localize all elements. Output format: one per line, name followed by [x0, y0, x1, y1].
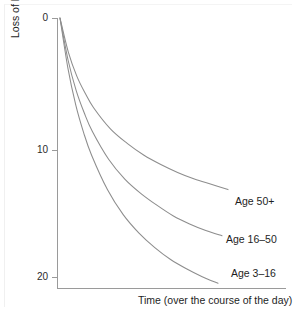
y-tick-label-20: 20: [26, 272, 48, 282]
series-label-age-50-plus: Age 50+: [235, 196, 274, 207]
series-label-age-16-50: Age 16–50: [226, 234, 277, 245]
curve-age-50: [60, 18, 228, 190]
y-tick-label-10: 10: [26, 145, 48, 155]
line-chart-plot: [0, 0, 296, 311]
series-curves-group: [60, 18, 228, 283]
curve-age-3-16: [60, 18, 218, 283]
y-tick-label-0: 0: [28, 13, 48, 23]
chart-figure: 0 10 20 Loss of height (mm) Time (over t…: [0, 0, 296, 311]
y-axis-label: Loss of height (mm): [10, 0, 21, 38]
curve-age-16-50: [60, 18, 222, 236]
x-axis-label: Time (over the course of the day): [138, 295, 292, 306]
series-label-age-3-16: Age 3–16: [231, 268, 276, 279]
